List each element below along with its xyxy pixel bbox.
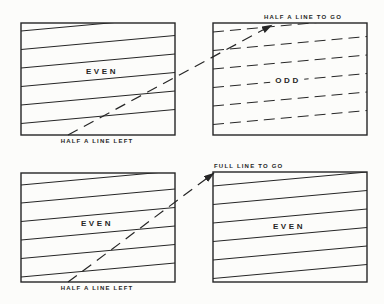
annotation-full-line-to-go: FULL LINE TO GO bbox=[214, 163, 283, 169]
odd-field-top-right-scanlines bbox=[213, 18, 367, 125]
retrace-half-line-arrow bbox=[68, 25, 272, 135]
field-label-even-top-left: EVEN bbox=[81, 67, 121, 77]
field-label-even-bottom-right: EVEN bbox=[268, 222, 308, 232]
interlaced-scanning-diagram: EVEN ODD EVEN EVEN HALF A LINE TO GO HAL… bbox=[0, 0, 384, 304]
diagram-canvas bbox=[0, 0, 384, 304]
field-label-odd-top-right: ODD bbox=[270, 76, 304, 86]
annotation-half-line-left-top: HALF A LINE LEFT bbox=[61, 138, 134, 144]
field-label-even-bottom-left: EVEN bbox=[76, 219, 116, 229]
annotation-half-line-left-bottom: HALF A LINE LEFT bbox=[61, 285, 134, 291]
annotation-half-line-to-go: HALF A LINE TO GO bbox=[264, 14, 342, 20]
